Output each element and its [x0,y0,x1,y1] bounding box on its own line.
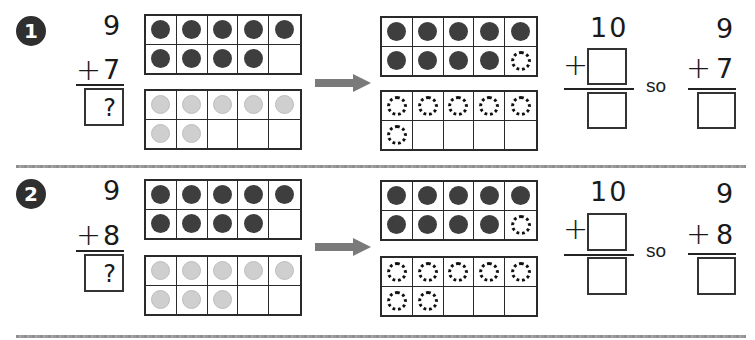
ten-frame-cell [444,258,475,287]
ten-frame-cell [146,257,177,286]
light-counter-icon [151,290,170,309]
ten-frame-cell [474,211,505,240]
dark-counter-icon [418,186,437,205]
ten-frame-cell [269,286,300,315]
light-counter-icon [182,261,201,280]
ten-frame-cell [505,258,536,287]
make-ten-addend-box[interactable] [587,213,627,251]
problem-2: 2 9 + 8 ? 10 + so 9 + 8 [0,0,755,170]
dashed-counter-icon [387,262,407,282]
restated-top: 9 [716,180,733,207]
dark-counter-icon [244,185,263,204]
dashed-counter-icon [448,262,468,282]
dashed-counter-icon [387,291,407,311]
ten-frame-cell [269,257,300,286]
dark-counter-icon [480,215,499,234]
ten-frame-cell [208,286,239,315]
ten-frame-cell [146,181,177,210]
ten-frame-cell [269,181,300,210]
addend-top: 9 [103,177,120,204]
light-counter-icon [244,261,263,280]
plus-sign: + [76,220,101,250]
ten-frame-cell [382,258,413,287]
ten-frame-cell [413,182,444,211]
dark-counter-icon [275,185,294,204]
dark-counter-icon [387,186,406,205]
dashed-counter-icon [511,215,531,235]
ten-frame-cell [208,210,239,239]
answer-box[interactable]: ? [84,254,124,292]
ten-frame-cell [474,287,505,316]
ten-frame-cell [474,258,505,287]
ten-frame-cell [238,210,269,239]
ten-frame-cell [444,182,475,211]
restated-sum-box[interactable] [697,257,736,295]
restated-sum-line [688,253,736,255]
make-ten-top: 10 [590,178,628,205]
ten-frame-cell [238,286,269,315]
unknown-placeholder: ? [103,260,116,288]
ten-frame-cell [177,210,208,239]
dark-counter-icon [449,186,468,205]
dark-counter-icon [387,215,406,234]
restated-bottom: 8 [716,221,733,248]
light-counter-icon [213,261,232,280]
light-counter-icon [151,261,170,280]
sum-line [76,250,124,252]
ten-frame-cell [505,182,536,211]
ten-frame-cell [505,211,536,240]
problem-number: 2 [24,182,38,206]
ten-frame-cell [382,287,413,316]
make-ten-sum-box[interactable] [587,257,627,295]
restated-plus: + [686,219,711,249]
ten-frame-right-top [380,180,538,241]
dark-counter-icon [480,186,499,205]
problem-number-badge: 2 [16,179,46,209]
ten-frame-cell [208,257,239,286]
dashed-counter-icon [479,262,499,282]
dark-counter-icon [511,186,530,205]
ten-frame-right-bottom [380,256,538,317]
ten-frame-cell [208,181,239,210]
ten-frame-cell [444,211,475,240]
dashed-counter-icon [418,262,438,282]
ten-frame-left-bottom [144,255,302,316]
ten-frame-cell [238,181,269,210]
dark-counter-icon [151,185,170,204]
make-ten-sum-line [564,254,634,256]
ten-frame-cell [382,182,413,211]
addend-bottom: 8 [103,222,120,249]
dark-counter-icon [213,214,232,233]
dark-counter-icon [182,185,201,204]
dark-counter-icon [151,214,170,233]
so-label: so [646,240,666,262]
right-arrow-icon [315,238,371,256]
ten-frame-cell [238,257,269,286]
ten-frame-cell [444,287,475,316]
ten-frame-cell [413,211,444,240]
ten-frame-cell [177,286,208,315]
ten-frame-cell [505,287,536,316]
ten-frame-cell [413,287,444,316]
ten-frame-left-top [144,179,302,240]
dark-counter-icon [182,214,201,233]
dark-counter-icon [418,215,437,234]
light-counter-icon [213,290,232,309]
dark-counter-icon [244,214,263,233]
dark-counter-icon [449,215,468,234]
ten-frame-cell [146,286,177,315]
ten-frame-cell [269,210,300,239]
make-ten-plus: + [563,214,588,244]
dashed-counter-icon [418,291,438,311]
ten-frame-cell [474,182,505,211]
light-counter-icon [182,290,201,309]
ten-frame-cell [177,257,208,286]
ten-frame-cell [146,210,177,239]
ten-frame-cell [177,181,208,210]
dark-counter-icon [213,185,232,204]
light-counter-icon [275,261,294,280]
ten-frame-cell [413,258,444,287]
dashed-counter-icon [511,262,531,282]
section-divider [16,335,746,338]
ten-frame-cell [382,211,413,240]
